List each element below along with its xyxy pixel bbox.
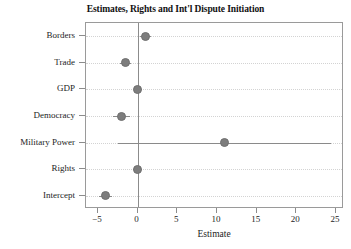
estimate-point[interactable]	[117, 112, 126, 121]
x-axis-tick-label: 10	[211, 214, 220, 224]
x-axis-tick-label: 15	[251, 214, 260, 224]
y-axis-tick-label: GDP	[57, 83, 75, 93]
y-axis-tick	[79, 168, 85, 169]
plot-area	[85, 22, 343, 208]
zero-reference-line	[138, 23, 139, 207]
x-axis-tick	[97, 208, 98, 213]
y-axis-tick	[79, 195, 85, 196]
x-axis-tick	[335, 208, 336, 213]
estimate-point[interactable]	[220, 138, 229, 147]
x-axis-tick	[295, 208, 296, 213]
x-axis-tick-label: 25	[331, 214, 340, 224]
y-axis-tick-label: Democracy	[34, 110, 75, 120]
y-axis-tick	[79, 62, 85, 63]
x-axis-tick	[256, 208, 257, 213]
x-axis-tick-label: 20	[291, 214, 300, 224]
x-axis-tick	[137, 208, 138, 213]
y-axis-tick-label: Rights	[51, 163, 75, 173]
estimate-point[interactable]	[141, 32, 150, 41]
y-axis-tick-label: Military Power	[20, 137, 75, 147]
estimate-point[interactable]	[133, 165, 142, 174]
y-axis-tick	[79, 35, 85, 36]
y-axis-tick	[79, 88, 85, 89]
y-axis-tick-label: Borders	[47, 30, 76, 40]
chart-title: Estimates, Rights and Int'l Dispute Init…	[0, 4, 351, 14]
gridline	[86, 36, 342, 37]
x-axis-tick-label: 5	[174, 214, 179, 224]
estimate-point[interactable]	[133, 85, 142, 94]
y-axis-tick-label: Intercept	[43, 190, 75, 200]
estimate-point[interactable]	[121, 58, 130, 67]
x-axis-tick	[176, 208, 177, 213]
gridline	[86, 169, 342, 170]
y-axis-tick	[79, 115, 85, 116]
x-axis-tick-label: −5	[92, 214, 102, 224]
x-axis-tick	[216, 208, 217, 213]
y-axis-tick-label: Trade	[54, 57, 75, 67]
estimate-point[interactable]	[101, 191, 110, 200]
x-axis-title: Estimate	[85, 229, 343, 239]
x-axis-tick-label: 0	[134, 214, 139, 224]
y-axis-tick	[79, 142, 85, 143]
gridline	[86, 89, 342, 90]
coefficient-plot-figure: Estimates, Rights and Int'l Dispute Init…	[0, 0, 351, 249]
gridline	[86, 196, 342, 197]
